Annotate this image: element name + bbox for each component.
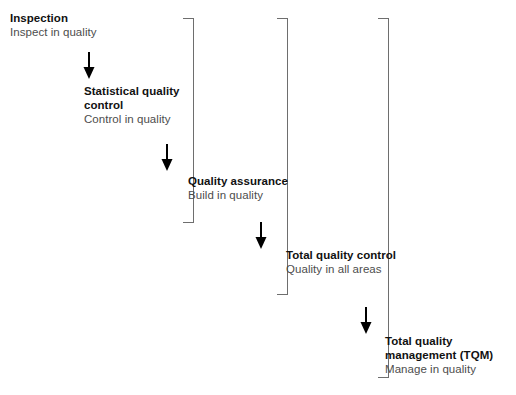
step-subtitle: Build in quality: [188, 188, 292, 202]
step-total-quality-management: Total quality management (TQM) Manage in…: [385, 334, 513, 377]
bracket-vertical-line: [388, 18, 389, 378]
bracket-top-tick: [277, 18, 287, 19]
step-subtitle: Manage in quality: [385, 362, 513, 376]
step-title: Inspection: [10, 11, 140, 25]
step-total-quality-control: Total quality control Quality in all are…: [286, 248, 398, 276]
arrow-down-icon: [254, 222, 268, 250]
step-inspection: Inspection Inspect in quality: [10, 11, 140, 39]
quality-evolution-diagram: Inspection Inspect in quality Statistica…: [0, 0, 516, 395]
bracket-top-tick: [378, 18, 388, 19]
bracket-bottom-tick: [277, 294, 287, 295]
step-title: Statistical quality control: [84, 84, 180, 112]
bracket-bottom-tick: [378, 377, 388, 378]
step-subtitle: Inspect in quality: [10, 25, 140, 39]
bracket-top-tick: [183, 18, 193, 19]
step-statistical-quality-control: Statistical quality control Control in q…: [84, 84, 180, 127]
step-title: Quality assurance: [188, 174, 292, 188]
step-quality-assurance: Quality assurance Build in quality: [188, 174, 292, 202]
step-title: Total quality control: [286, 248, 398, 262]
arrow-down-icon: [82, 52, 96, 80]
step-subtitle: Control in quality: [84, 112, 180, 126]
arrow-down-icon: [359, 307, 373, 335]
step-title: Total quality management (TQM): [385, 334, 513, 362]
step-subtitle: Quality in all areas: [286, 262, 398, 276]
bracket-bottom-tick: [183, 222, 193, 223]
arrow-down-icon: [160, 144, 174, 172]
bracket-total-quality-management: [378, 18, 389, 378]
